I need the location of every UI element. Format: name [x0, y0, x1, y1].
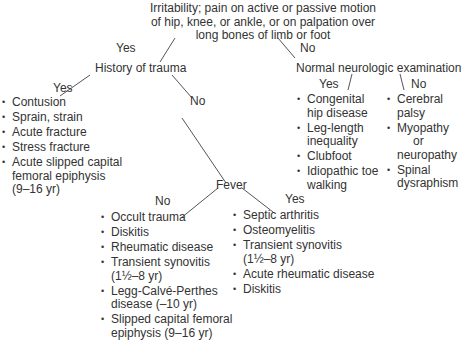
list-item: Diskitis [233, 283, 374, 297]
line-neuro-no [400, 74, 404, 90]
neuro-no-label: No [411, 78, 426, 92]
list-item: Spinaldysraphism [387, 164, 458, 191]
list-item: Clubfoot [297, 150, 378, 164]
trauma-node: History of trauma [95, 62, 186, 76]
list-item: Cerebralpalsy [387, 93, 458, 120]
root-question: Irritability; pain on active or passive … [118, 2, 408, 43]
list-item: Osteomyelitis [233, 224, 374, 238]
list-item: Acute rheumatic disease [233, 268, 374, 282]
list-item: Septic arthritis [233, 209, 374, 223]
neuro-yes-label: Yes [319, 78, 339, 92]
list-item: Transient synovitis(1½–8 yr) [233, 239, 374, 266]
list-item: Contusion [2, 96, 122, 110]
list-item: Slipped capital femoralepiphysis (9–16 y… [101, 313, 232, 340]
root-no-label: No [300, 42, 315, 56]
fever-no-label: No [155, 195, 170, 209]
list-item: Stress fracture [2, 141, 122, 155]
fever-yes-label: Yes [285, 193, 305, 207]
fever-yes-list: Septic arthritis Osteomyelitis Transient… [233, 209, 374, 298]
fever-node: Fever [216, 179, 247, 193]
line-trauma-no-to-fever [182, 118, 226, 183]
list-item: Transient synovitis(1½–8 yr) [101, 256, 232, 283]
fever-no-list: Occult trauma Diskitis Rheumatic disease… [101, 211, 232, 342]
list-item: Acute fracture [2, 126, 122, 140]
list-item: Occult trauma [101, 211, 232, 225]
line-neuro-yes [348, 74, 352, 90]
root-yes-label: Yes [116, 42, 136, 56]
neuro-yes-list: Congenitalhip disease Leg-lengthinequali… [297, 93, 378, 194]
line-trauma-no [172, 75, 192, 98]
list-item: Congenitalhip disease [297, 93, 378, 120]
list-item: Sprain, strain [2, 111, 122, 125]
list-item: Idiopathic toewalking [297, 165, 378, 192]
list-item: Diskitis [101, 226, 232, 240]
list-item: Legg-Calvé-Perthesdisease (–10 yr) [101, 285, 232, 312]
neuro-node: Normal neurologic examination [296, 62, 461, 76]
trauma-yes-label: Yes [53, 82, 73, 96]
trauma-yes-list: Contusion Sprain, strain Acute fracture … [2, 96, 122, 198]
trauma-no-label: No [190, 95, 205, 109]
list-item: Rheumatic disease [101, 241, 232, 255]
neuro-no-list: Cerebralpalsy Myopathyorneuropathy Spina… [387, 93, 458, 192]
list-item: Leg-lengthinequality [297, 122, 378, 149]
list-item: Myopathyorneuropathy [387, 122, 458, 163]
list-item: Acute slipped capitalfemoral epiphysis(9… [2, 156, 122, 197]
